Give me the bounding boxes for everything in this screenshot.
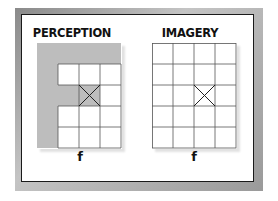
perception-title: PERCEPTION (28, 25, 116, 40)
perception-letter-label: f (70, 149, 90, 164)
imagery-grid-svg (152, 43, 237, 149)
picture-frame: PERCEPTION IMAGERY (15, 8, 263, 191)
imagery-letter-label: f (184, 149, 204, 164)
imagery-title: IMAGERY (146, 25, 234, 40)
imagery-grid (152, 43, 237, 149)
perception-grid (37, 43, 122, 149)
diagram-area: PERCEPTION IMAGERY (21, 14, 254, 182)
perception-grid-svg (37, 43, 122, 149)
